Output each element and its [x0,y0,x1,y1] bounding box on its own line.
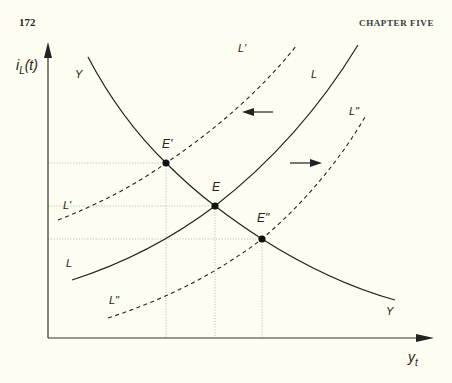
arrow-left-icon [242,108,273,116]
curve-Y [88,57,395,300]
label-L-bottom: L [66,257,72,269]
point-E-double-prime [258,235,265,242]
label-Y-top: Y [75,68,83,80]
label-L-prime-top: L' [238,42,247,54]
axes [48,56,420,338]
label-E-double-prime: E" [257,211,270,225]
label-L-top: L [311,68,317,80]
label-Y-bottom: Y [386,305,394,317]
label-E: E [212,180,221,194]
label-L-double-prime-bottom: L" [109,294,120,306]
x-axis-label: yt [407,349,419,368]
point-E [211,202,218,209]
curve-L-prime [58,45,297,220]
label-E-prime: E' [162,137,173,151]
label-L-prime-left: L' [63,199,72,211]
label-L-double-prime-top: L" [349,105,360,117]
curve-L-double-prime [108,117,365,318]
is-lm-diagram: iL(t) yt Y Y L L L' L' L" L" E' E E" [0,0,452,383]
guide-lines [48,163,262,338]
point-E-prime [162,159,169,166]
x-axis-arrowhead-icon [416,334,434,342]
y-axis-arrowhead-icon [44,42,52,58]
y-axis-label: iL(t) [16,57,38,76]
arrow-right-icon [290,159,322,167]
